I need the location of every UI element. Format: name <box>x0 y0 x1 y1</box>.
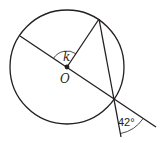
angle-label-42: 42° <box>118 117 135 128</box>
geometry-diagram: k O 42° <box>0 0 165 143</box>
diagram-svg <box>0 0 165 143</box>
center-point-dot <box>65 65 70 70</box>
radius-line <box>67 19 99 67</box>
center-label-o: O <box>60 73 70 85</box>
diameter-secant-line <box>20 36 156 127</box>
angle-label-k: k <box>63 51 70 63</box>
